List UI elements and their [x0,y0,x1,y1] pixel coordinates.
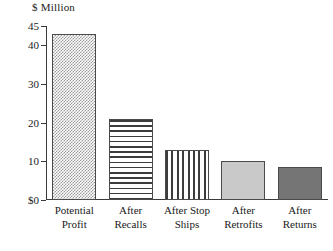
bar-slot [46,26,102,200]
bar[interactable] [221,161,265,200]
x-category-label: After Returns [272,204,328,231]
x-category-label: After Stop Ships [159,204,215,231]
y-tick-label: 30 [28,78,39,90]
bar[interactable] [278,167,322,200]
x-category-label: After Retrofits [215,204,271,231]
bar-slot [159,26,215,200]
bar-slot [102,26,158,200]
y-tick-mark [41,200,46,201]
y-tick-label: 10 [28,155,39,167]
chart-title: $ Million [32,1,75,13]
bar-series [46,26,328,200]
x-category-label: Potential Profit [46,204,102,231]
bar-slot [215,26,271,200]
plot-area: 4540302010$0 [46,26,328,200]
bar-chart: $ Million 4540302010$0 Potential ProfitA… [0,0,333,251]
x-category-label: After Recalls [102,204,158,231]
bar-slot [272,26,328,200]
x-axis-category-labels: Potential ProfitAfter RecallsAfter Stop … [46,204,328,250]
y-tick-label: 40 [28,39,39,51]
y-tick-label: 20 [28,117,39,129]
bar[interactable] [109,119,153,200]
bar[interactable] [52,34,96,200]
y-tick-label: $0 [28,194,39,206]
y-tick-label: 45 [28,20,39,32]
bar[interactable] [165,150,209,200]
